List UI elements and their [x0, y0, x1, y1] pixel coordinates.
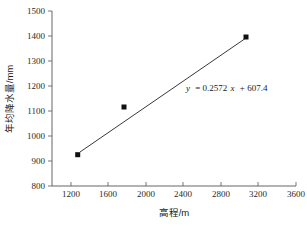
equation-intercept: + 607.4 [240, 83, 268, 93]
x-tick-label: 2800 [212, 189, 231, 199]
y-tick-label: 1300 [27, 56, 46, 66]
equation-y-symbol: y [185, 83, 190, 93]
x-tick-label: 3200 [249, 189, 268, 199]
x-tick-label: 1200 [62, 189, 81, 199]
equation-coefficient: = 0.2572 [195, 83, 227, 93]
y-tick-label: 1000 [27, 131, 46, 141]
x-axis-title: 高程/m [159, 207, 190, 218]
regression-trend-line [80, 38, 246, 152]
equation-x-symbol: x [230, 83, 235, 93]
x-tick-label: 3600 [287, 189, 306, 199]
y-tick-label: 1200 [27, 81, 46, 91]
x-tick-label: 2000 [137, 189, 156, 199]
scatter-plot: 800 900 1000 1100 1200 1300 1400 1500 12… [0, 0, 307, 227]
y-axis-ticks [48, 11, 52, 186]
y-tick-label: 800 [32, 181, 46, 191]
y-tick-label: 900 [32, 156, 46, 166]
x-tick-label: 1600 [99, 189, 118, 199]
y-axis-title: 年均降水量/mm [4, 65, 15, 134]
y-tick-label: 1400 [27, 31, 46, 41]
y-tick-label: 1500 [27, 6, 46, 16]
y-tick-label: 1100 [27, 106, 45, 116]
x-axis-ticks [71, 182, 296, 186]
y-axis-tick-labels: 800 900 1000 1100 1200 1300 1400 1500 [27, 6, 46, 191]
regression-equation-label: y = 0.2572 x + 607.4 [185, 83, 268, 93]
chart-figure: 800 900 1000 1100 1200 1300 1400 1500 12… [0, 0, 307, 227]
data-point-marker [122, 105, 127, 110]
x-axis-tick-labels: 1200 1600 2000 2400 2800 3200 3600 [62, 189, 306, 199]
data-point-marker [244, 35, 249, 40]
x-tick-label: 2400 [174, 189, 193, 199]
data-point-marker [75, 152, 80, 157]
